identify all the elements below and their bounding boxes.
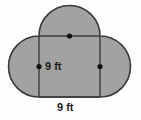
- geometry-figure-container: 9 ft 9 ft: [0, 0, 141, 120]
- top-center-dot: [67, 33, 72, 38]
- right-semicircle-fill: [100, 36, 130, 97]
- left-center-dot: [36, 64, 41, 69]
- right-center-dot: [97, 64, 102, 69]
- shape-fill-group: [9, 5, 131, 97]
- top-semicircle-fill: [39, 5, 100, 36]
- radius-dimension-label: 9 ft: [45, 60, 62, 72]
- base-dimension-label: 9 ft: [57, 101, 74, 113]
- left-semicircle-fill: [9, 36, 39, 97]
